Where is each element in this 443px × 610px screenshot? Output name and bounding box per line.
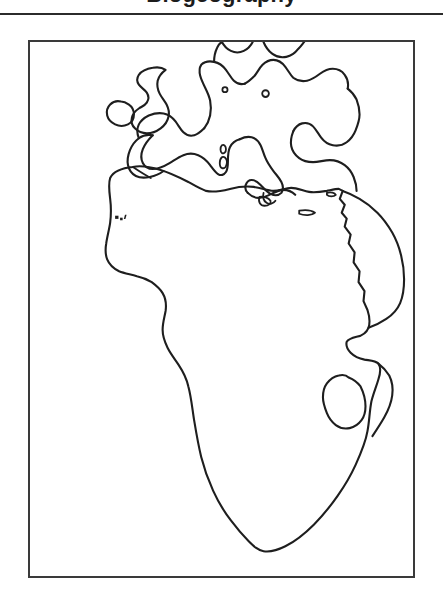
scandinavia-coastline <box>222 42 253 52</box>
italy-coastline <box>240 137 283 195</box>
coastline-map <box>30 42 413 576</box>
page-title-clip: Biogeography <box>0 0 443 7</box>
baltic-coastline <box>245 60 348 89</box>
canary-islands <box>115 215 126 221</box>
crete-island <box>299 210 315 215</box>
header-divider <box>0 13 443 15</box>
inland-sea-dot-icon <box>262 90 269 97</box>
east-africa-outline <box>323 375 366 428</box>
page-title: Biogeography <box>0 0 443 7</box>
corsica-island <box>221 145 226 153</box>
great-britain-coastline <box>132 67 169 133</box>
arabia-coastline <box>343 191 404 328</box>
horn-of-africa-coastline <box>372 364 392 436</box>
denmark-coastline <box>214 42 222 62</box>
norway-coastline <box>264 42 305 57</box>
north-sea-coastline <box>200 61 245 128</box>
cyprus-island <box>327 192 336 196</box>
document-page: Biogeography <box>0 0 443 610</box>
southern-europe-coastline <box>141 135 239 175</box>
black-sea-coastline <box>293 89 359 146</box>
sardinia-island <box>220 157 227 168</box>
iberia-coastline <box>128 135 164 178</box>
map-figure-frame <box>28 40 415 578</box>
africa-coastline <box>106 166 381 551</box>
ireland-coastline <box>107 101 134 126</box>
lake-dot-icon <box>222 87 227 92</box>
